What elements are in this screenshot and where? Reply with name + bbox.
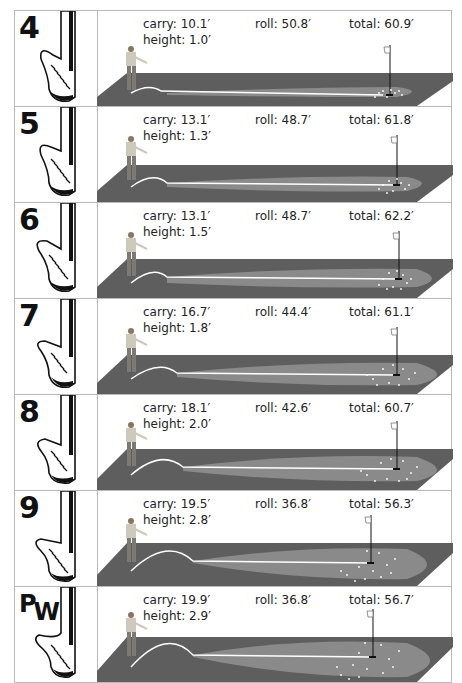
total-distance: total: 60.9′	[349, 17, 414, 31]
shot-height: height: 1.0′	[143, 33, 211, 47]
carry-distance: carry: 10.1′	[143, 17, 210, 31]
chip-distance-table: 4 carry: 10.1′ height: 1.0′ roll:	[14, 10, 452, 683]
total-distance: total: 62.2′	[349, 209, 414, 223]
total-distance: total: 61.1′	[349, 305, 414, 319]
row-club-4: 4 carry: 10.1′ height: 1.0′ roll:	[14, 11, 452, 107]
shot-diagram: carry: 13.1′ height: 1.5′ roll: 48.7′ to…	[97, 203, 453, 298]
carry-distance: carry: 16.7′	[143, 305, 210, 319]
row-club-9: 9 carry: 19.5′ height: 2.8′ roll: 36.8′ …	[14, 491, 452, 587]
shot-height: height: 1.8′	[143, 321, 211, 335]
carry-distance: carry: 13.1′	[143, 209, 210, 223]
club-cell: 7	[15, 299, 98, 394]
shot-diagram: carry: 13.1′ height: 1.3′ roll: 48.7′ to…	[97, 107, 453, 202]
total-distance: total: 61.8′	[349, 113, 414, 127]
club-cell: 6	[15, 203, 98, 298]
roll-distance: roll: 36.8′	[255, 593, 311, 607]
club-head-icon	[35, 299, 95, 394]
club-head-icon	[35, 395, 95, 490]
shot-diagram: carry: 19.5′ height: 2.8′ roll: 36.8′ to…	[97, 491, 453, 586]
row-club-6: 6 carry: 13.1′ height: 1.5′ roll: 48.7′ …	[14, 203, 452, 299]
total-distance: total: 56.7′	[349, 593, 414, 607]
row-club-8: 8 carry: 18.1′ height: 2.0′ roll: 42.6′ …	[14, 395, 452, 491]
club-head-icon	[35, 203, 95, 298]
carry-distance: carry: 18.1′	[143, 401, 210, 415]
club-cell: 4	[15, 11, 98, 106]
roll-distance: roll: 44.4′	[255, 305, 311, 319]
row-club-pw: PW carry: 19.9′ height: 2.9′ roll: 36.8′…	[14, 587, 452, 683]
club-cell: 5	[15, 107, 98, 202]
roll-distance: roll: 42.6′	[255, 401, 311, 415]
shot-height: height: 2.9′	[143, 609, 211, 623]
club-cell: PW	[15, 587, 98, 682]
club-head-icon	[35, 491, 95, 586]
carry-distance: carry: 19.9′	[143, 593, 210, 607]
row-club-5: 5 carry: 13.1′ height: 1.3′ roll: 48.7′ …	[14, 107, 452, 203]
club-head-icon	[35, 587, 95, 682]
club-cell: 9	[15, 491, 98, 586]
total-distance: total: 60.7′	[349, 401, 414, 415]
row-club-7: 7 carry: 16.7′ height: 1.8′ roll: 44.4′ …	[14, 299, 452, 395]
club-cell: 8	[15, 395, 98, 490]
roll-distance: roll: 48.7′	[255, 113, 311, 127]
shot-height: height: 2.8′	[143, 513, 211, 527]
roll-distance: roll: 48.7′	[255, 209, 311, 223]
shot-diagram: carry: 10.1′ height: 1.0′ roll: 50.8′ to…	[97, 11, 453, 106]
shot-diagram: carry: 16.7′ height: 1.8′ roll: 44.4′ to…	[97, 299, 453, 394]
roll-distance: roll: 36.8′	[255, 497, 311, 511]
shot-height: height: 2.0′	[143, 417, 211, 431]
shot-diagram: carry: 19.9′ height: 2.9′ roll: 36.8′ to…	[97, 587, 453, 682]
club-head-icon	[35, 11, 95, 106]
shot-height: height: 1.3′	[143, 129, 211, 143]
carry-distance: carry: 13.1′	[143, 113, 210, 127]
total-distance: total: 56.3′	[349, 497, 414, 511]
shot-diagram: carry: 18.1′ height: 2.0′ roll: 42.6′ to…	[97, 395, 453, 490]
club-head-icon	[35, 107, 95, 202]
carry-distance: carry: 19.5′	[143, 497, 210, 511]
shot-height: height: 1.5′	[143, 225, 211, 239]
roll-distance: roll: 50.8′	[255, 17, 311, 31]
